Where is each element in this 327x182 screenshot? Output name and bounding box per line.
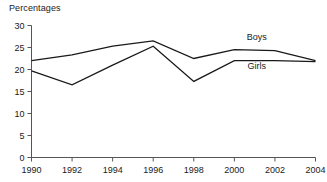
y-axis-tick-marks bbox=[28, 26, 32, 158]
x-tick-label: 1990 bbox=[21, 165, 41, 175]
series-inline-labels: BoysGirls bbox=[247, 32, 268, 71]
x-tick-label: 1994 bbox=[103, 165, 123, 175]
series-line-girls bbox=[32, 46, 316, 85]
y-axis-tick-labels: 051015202530 bbox=[14, 21, 24, 163]
x-tick-label: 1998 bbox=[184, 165, 204, 175]
data-series-group bbox=[32, 41, 316, 85]
x-tick-label: 1992 bbox=[62, 165, 82, 175]
x-tick-label: 2004 bbox=[305, 165, 325, 175]
y-tick-label: 30 bbox=[14, 21, 24, 31]
y-tick-label: 20 bbox=[14, 65, 24, 75]
y-tick-label: 5 bbox=[19, 131, 24, 141]
y-tick-label: 25 bbox=[14, 43, 24, 53]
line-chart: Percentages 051015202530 199019921994199… bbox=[0, 0, 327, 182]
x-axis-tick-marks bbox=[32, 158, 316, 162]
x-tick-label: 2000 bbox=[224, 165, 244, 175]
y-tick-label: 0 bbox=[19, 153, 24, 163]
x-tick-label: 2002 bbox=[265, 165, 285, 175]
chart-plot-area: 051015202530 199019921994199619982000200… bbox=[0, 0, 327, 182]
series-label-boys: Boys bbox=[247, 32, 268, 42]
y-tick-label: 15 bbox=[14, 87, 24, 97]
y-tick-label: 10 bbox=[14, 109, 24, 119]
x-tick-label: 1996 bbox=[143, 165, 163, 175]
series-line-boys bbox=[32, 41, 316, 61]
series-label-girls: Girls bbox=[247, 61, 266, 71]
x-axis-tick-labels: 19901992199419961998200020022004 bbox=[21, 165, 325, 175]
